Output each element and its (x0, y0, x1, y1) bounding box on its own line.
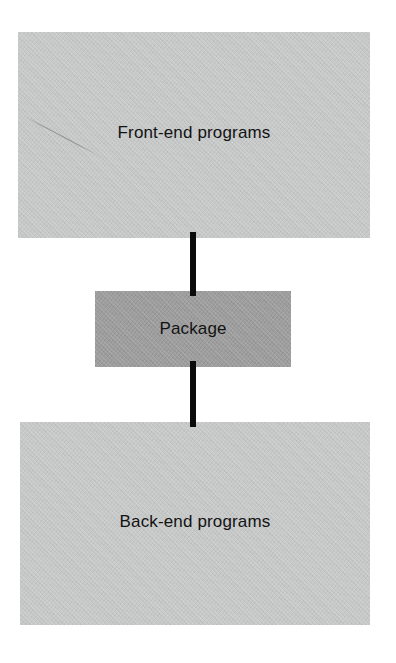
node-package[interactable]: Package (95, 291, 291, 367)
node-package-label: Package (159, 320, 226, 339)
connector-package-to-backend (190, 361, 196, 427)
connector-frontend-to-package (190, 232, 196, 296)
flow-diagram: Front-end programs Package Back-end prog… (0, 0, 396, 663)
node-backend-programs-label: Back-end programs (120, 513, 271, 532)
node-frontend-programs[interactable]: Front-end programs (18, 32, 370, 238)
node-frontend-programs-label: Front-end programs (118, 124, 271, 143)
node-backend-programs[interactable]: Back-end programs (20, 422, 370, 625)
